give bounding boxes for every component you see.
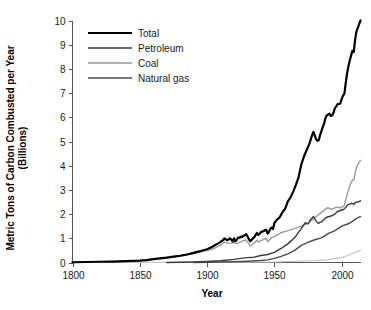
legend-label: Petroleum — [138, 43, 184, 54]
x-axis-title: Year — [201, 288, 222, 299]
chart-container: Metric Tons of Carbon Combusted per Year… — [0, 0, 371, 310]
y-tick-label: 1 — [60, 233, 66, 244]
legend-item-total[interactable]: Total — [88, 28, 159, 39]
y-tick-label: 8 — [60, 64, 66, 75]
x-axis-ticks: 18001850190019502000 — [62, 263, 354, 281]
y-tick-label: 5 — [60, 137, 66, 148]
y-tick-label: 2 — [60, 209, 66, 220]
series-line-total — [73, 21, 361, 263]
y-axis-title-line2: (Billions) — [17, 127, 28, 170]
y-tick-label: 10 — [54, 16, 66, 27]
y-tick-label: 7 — [60, 88, 66, 99]
y-tick-label: 6 — [60, 112, 66, 123]
series-line-coal — [73, 160, 361, 262]
legend-label: Total — [138, 28, 159, 39]
y-tick-label: 3 — [60, 185, 66, 196]
y-axis-ticks: 012345678910 — [54, 16, 72, 269]
x-tick-label: 1850 — [129, 270, 152, 281]
legend-item-petroleum[interactable]: Petroleum — [88, 43, 184, 54]
y-axis-title-line1: Metric Tons of Carbon Combusted per Year — [5, 45, 16, 250]
legend-item-natural-gas[interactable]: Natural gas — [88, 73, 189, 84]
line-chart: Metric Tons of Carbon Combusted per Year… — [0, 0, 371, 310]
x-tick-label: 2000 — [331, 270, 354, 281]
legend-label: Coal — [138, 58, 159, 69]
series-group — [73, 21, 361, 263]
x-tick-label: 1950 — [263, 270, 286, 281]
x-tick-label: 1800 — [62, 270, 85, 281]
y-tick-label: 0 — [60, 258, 66, 269]
legend-item-coal[interactable]: Coal — [88, 58, 159, 69]
y-tick-label: 4 — [60, 161, 66, 172]
legend-label: Natural gas — [138, 73, 189, 84]
series-line-natural-gas — [194, 217, 361, 263]
x-tick-label: 1900 — [196, 270, 219, 281]
y-tick-label: 9 — [60, 40, 66, 51]
chart-legend: TotalPetroleumCoalNatural gas — [88, 28, 189, 84]
